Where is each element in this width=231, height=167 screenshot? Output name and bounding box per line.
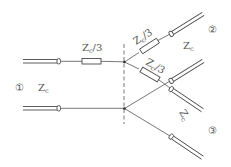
power-divider-diagram: Zc/3 ① Zc Zc/3 Zc/3 ② Zc Zc ③ [0,0,231,167]
port2-coax-ground [168,58,204,84]
port1-coax-top [23,59,61,65]
port3-impedance-label: Zc [176,108,193,124]
port2-impedance-label: Zc [183,40,194,53]
port2-signal-wire-b [158,34,170,41]
port3-signal-wire-a [125,62,140,69]
port1-impedance-label: Zc [38,82,49,95]
port2-ground-wire [125,81,171,109]
port3-ground-wire [125,109,171,137]
port1-coax-bottom [23,106,61,112]
port3-coax-ground [168,133,204,160]
port1-number-label: ① [15,82,24,93]
port3-number-label: ③ [208,125,217,136]
port1-resistor-label: Zc/3 [82,42,102,55]
port1-signal-wire-b [101,61,124,62]
port1-resistor [82,59,101,65]
port2-signal-wire-a [125,53,140,63]
port2-coax-signal [168,11,204,37]
port2-number-label: ② [208,24,217,35]
